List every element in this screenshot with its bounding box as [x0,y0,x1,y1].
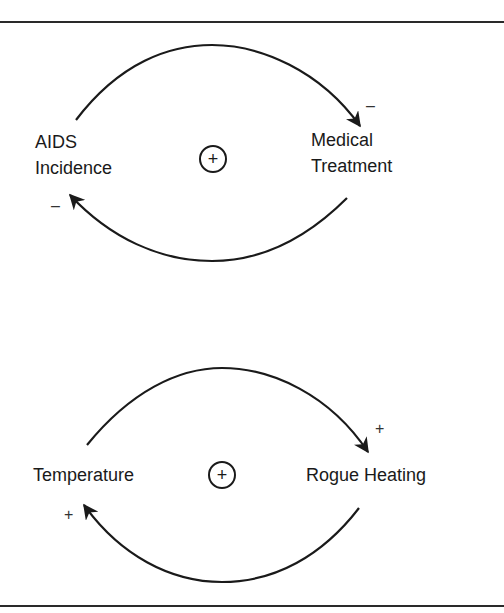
polarity-treatment-to-aids: – [51,198,60,214]
loop-polarity-icon: + [199,145,227,173]
node-temperature: Temperature [33,462,134,488]
arrow-temperature-to-heating [87,368,368,452]
arrow-aids-to-treatment [76,45,360,126]
polarity-aids-to-treatment: – [366,98,375,114]
loop-polarity-icon: + [208,461,236,489]
node-aids-incidence: AIDS Incidence [35,129,112,181]
node-medical-treatment: Medical Treatment [311,127,392,179]
causal-loop-arrows [0,0,504,613]
node-rogue-heating: Rogue Heating [306,462,426,488]
arrow-heating-to-temperature [84,505,359,582]
polarity-heating-to-temperature: + [64,507,73,523]
polarity-temperature-to-heating: + [375,421,384,437]
arrow-treatment-to-aids [70,195,347,261]
